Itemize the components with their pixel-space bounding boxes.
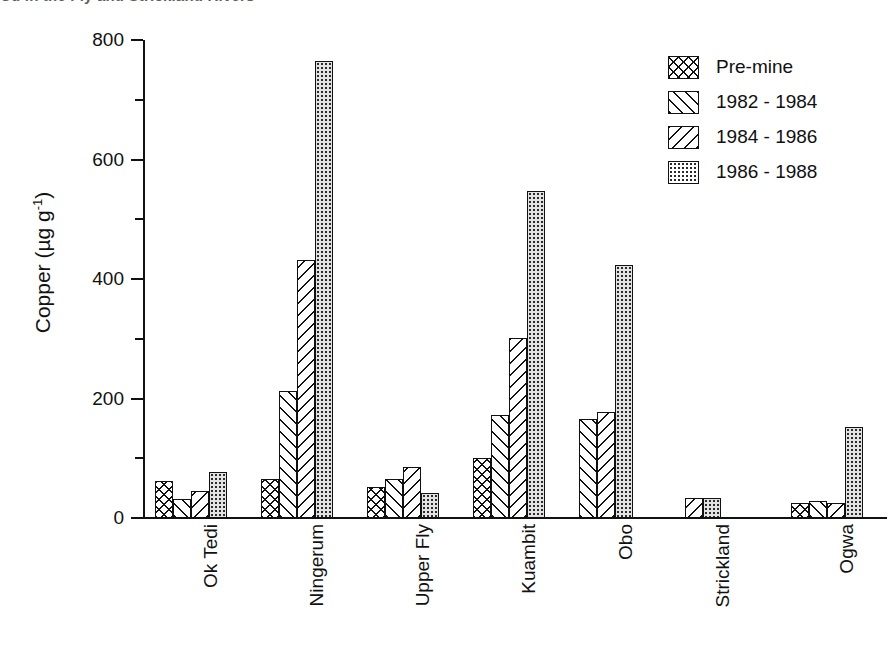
y-tick-label: 200 [72,389,124,408]
y-tick-label: 800 [72,30,124,49]
x-tick-label: Ogwa [836,524,858,574]
y-tick-major [131,39,143,41]
x-tick-label: Ningerum [306,524,328,606]
x-tick-label: Strickland [712,524,734,607]
legend-swatch-back-diagonal [668,126,699,149]
legend-label: 1986 - 1988 [716,161,817,183]
legend-swatch-crosshatch [668,56,699,79]
bar [473,458,491,518]
y-tick-major [131,278,143,280]
y-tick-minor [135,99,143,101]
x-tick-label: Upper Fly [412,524,434,606]
bar [261,479,279,518]
legend: Pre-mine1982 - 19841984 - 19861986 - 198… [668,52,817,192]
top-caption-clipped: Cu in the Fly and Strickland Rivers [0,0,560,5]
legend-swatch-dots [668,161,699,184]
x-tick-label: Obo [615,524,637,560]
y-tick-minor [135,338,143,340]
bar [703,498,721,518]
bar [579,419,597,518]
bar [173,499,191,518]
x-tick-label: Kuambit [518,524,540,594]
bar-group [251,40,357,518]
bar [527,191,545,518]
y-tick-major [131,159,143,161]
bar [845,427,863,518]
legend-item: 1986 - 1988 [668,157,817,187]
y-axis-title: Copper (µg g-1) [30,103,55,423]
bar [279,391,297,518]
bar [385,479,403,518]
bar [509,338,527,518]
bar [421,493,439,518]
bar [827,503,845,518]
legend-swatch-fwd-diagonal [668,91,699,114]
bar [297,260,315,518]
bar [209,472,227,518]
x-tick-label: Ok Tedi [200,524,222,588]
y-axis-title-exponent: -1 [30,199,45,211]
y-axis-title-main: Copper (µg g [31,210,54,333]
bar [615,265,633,518]
bar [315,61,333,518]
y-tick-label: 600 [72,150,124,169]
bar [597,412,615,518]
y-tick-major [131,517,143,519]
y-tick-minor [135,218,143,220]
bar-chart: Cu in the Fly and Strickland Rivers Copp… [0,0,892,656]
bar [791,503,809,518]
legend-item: Pre-mine [668,52,817,82]
bar [685,498,703,518]
y-tick-major [131,398,143,400]
bar [367,487,385,518]
legend-item: 1982 - 1984 [668,87,817,117]
bar-group [569,40,675,518]
bar [191,491,209,518]
legend-item: 1984 - 1986 [668,122,817,152]
bar-group [145,40,251,518]
bar [403,467,421,518]
bar-group [357,40,463,518]
y-tick-minor [135,457,143,459]
legend-label: 1984 - 1986 [716,126,817,148]
bar-group [463,40,569,518]
y-axis-title-tail: ) [31,192,54,199]
bar [809,501,827,518]
y-tick-label: 0 [72,508,124,527]
legend-label: Pre-mine [716,56,793,78]
bar [155,481,173,518]
legend-label: 1982 - 1984 [716,91,817,113]
y-tick-label: 400 [72,269,124,288]
bar [491,415,509,518]
